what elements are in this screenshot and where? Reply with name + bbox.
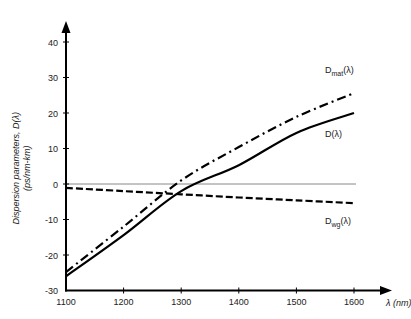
y-tick-label: -20 [45, 251, 58, 261]
y-tick-label: 20 [48, 109, 58, 119]
y-axis-units: (ps/nm-km) [22, 146, 32, 192]
x-tick-label: 1300 [171, 297, 191, 307]
x-tick-label: 1100 [56, 297, 75, 307]
series-label: Dwg(λ) [325, 216, 351, 229]
x-tick-label: 1200 [114, 297, 134, 307]
plot-area: 110012001300140015001600-30-20-100102030… [11, 21, 411, 308]
series-label: D(λ) [325, 129, 342, 139]
y-tick-label: -30 [45, 286, 58, 296]
x-axis-title: λ (nm) [385, 298, 411, 308]
y-tick-label: 40 [48, 38, 58, 48]
series-line-d [66, 113, 354, 276]
y-axis-title: Dispersion parameters, D(λ) [11, 112, 21, 224]
series-label: Dmat(λ) [325, 65, 354, 77]
y-tick-label: 10 [48, 144, 58, 154]
x-axis-arrow-icon [380, 286, 392, 295]
x-tick-label: 1600 [344, 297, 364, 307]
x-tick-label: 1400 [229, 297, 249, 307]
y-tick-label: -10 [45, 215, 58, 225]
series-line-dwg [66, 188, 354, 203]
x-tick-label: 1500 [286, 297, 306, 307]
y-axis-arrow-icon [62, 21, 71, 33]
dispersion-chart: 110012001300140015001600-30-20-100102030… [0, 0, 411, 319]
y-tick-label: 0 [53, 180, 58, 190]
y-tick-label: 30 [48, 73, 58, 83]
